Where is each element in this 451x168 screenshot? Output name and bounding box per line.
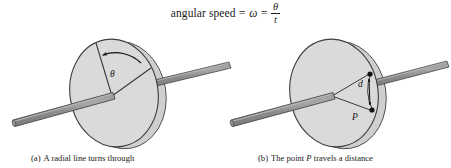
point-p-dot	[369, 107, 374, 112]
panel-a-diagram	[12, 33, 231, 155]
disk-diagrams-svg	[0, 0, 451, 168]
caption-b: (b)The point P travels a distance	[258, 154, 373, 164]
panel-b-diagram	[230, 33, 449, 155]
theta-angle-label: θ	[110, 69, 115, 79]
caption-a-label: (a)	[31, 153, 44, 163]
distance-d-label: d	[358, 79, 363, 89]
caption-b-label: (b)	[258, 153, 271, 163]
point-start-dot	[367, 71, 372, 76]
physics-figure: angular speed=ω= θ t	[0, 0, 451, 168]
caption-b-text-post: travels a distance	[312, 153, 373, 163]
caption-a-text: A radial line turns through	[44, 153, 135, 163]
caption-a: (a)A radial line turns through	[31, 154, 134, 164]
caption-b-text-pre: The point	[271, 153, 306, 163]
point-p-label: P	[352, 112, 358, 122]
